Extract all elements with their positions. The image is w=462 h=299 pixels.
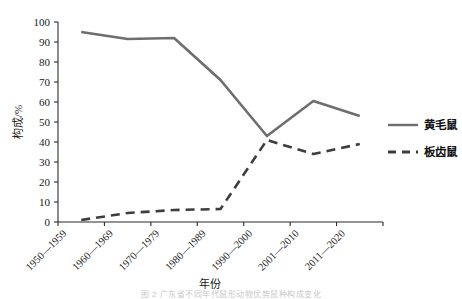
figure-caption: 图 2 广东省不同年代鼠形动物优势鼠种构成变化 [0,288,462,299]
x-tick-label: 2011—2020 [303,228,348,273]
x-tick-label: 1980—1989 [163,228,208,273]
y-tick-label: 100 [34,16,51,28]
y-axis-title: 构成/% [11,105,24,139]
y-tick-label: 30 [39,156,51,168]
chart-legend: 黄毛鼠 板齿鼠 [388,118,458,158]
y-axis-ticks: 0102030405060708090100 [34,16,59,228]
x-tick-label: 1950—1959 [24,228,69,273]
x-tick-label: 1990—2000 [209,228,254,273]
y-tick-label: 80 [39,56,51,68]
x-tick-label: 2001—2010 [256,228,301,273]
x-tick-label: 1970—1979 [117,228,162,273]
y-tick-label: 70 [39,76,51,88]
y-tick-label: 20 [39,176,51,188]
legend-label-banchishu: 板齿鼠 [424,145,458,158]
x-axis-ticks: 1950—19591960—19691970—19791980—19891990… [24,222,383,273]
series-line-banchishu [81,140,360,220]
y-tick-label: 60 [39,96,51,108]
y-tick-label: 40 [39,136,51,148]
x-tick-label: 1960—1969 [70,228,115,273]
legend-label-huangmaoshu: 黄毛鼠 [424,118,458,131]
y-tick-label: 50 [39,116,51,128]
y-tick-label: 90 [39,36,51,48]
y-tick-label: 0 [45,216,51,228]
series-line-huangmaoshu [81,32,360,136]
y-tick-label: 10 [39,196,51,208]
